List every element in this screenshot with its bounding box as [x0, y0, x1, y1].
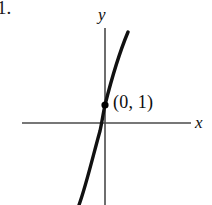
point-marker-0-1: [101, 101, 108, 108]
y-axis-label: y: [98, 6, 106, 23]
x-axis-label: x: [195, 114, 203, 131]
point-coordinate-label: (0, 1): [113, 93, 153, 111]
exponential-curve: [79, 32, 128, 205]
graph-canvas: [0, 0, 212, 205]
math-figure: 1. y x (0, 1): [0, 0, 212, 205]
